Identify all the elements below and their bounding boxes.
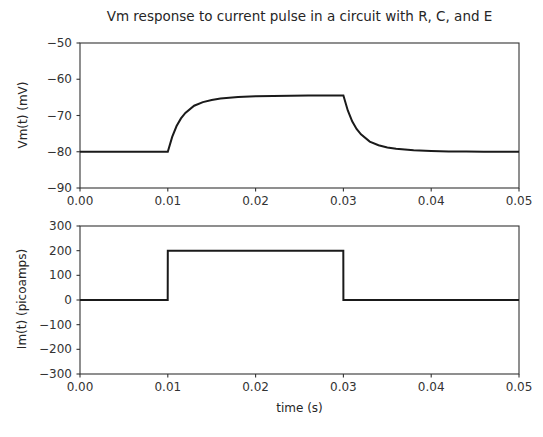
- im-xtick-label: 0.02: [242, 380, 269, 394]
- vm-ytick-label: −80: [0, 145, 72, 159]
- vm-xtick-label: 0.00: [67, 194, 94, 208]
- figure-canvas: Vm response to current pulse in a circui…: [0, 0, 543, 437]
- vm-plot-frame: [80, 43, 519, 188]
- vm-ytick-label: −60: [0, 72, 72, 86]
- vm-ytick-label: −70: [0, 109, 72, 123]
- vm-axes: [0, 0, 543, 437]
- im-ytick-label: 100: [0, 268, 72, 282]
- vm-xtick-label: 0.02: [242, 194, 269, 208]
- im-xtick-label: 0.03: [330, 380, 357, 394]
- vm-ytick-label: −90: [0, 181, 72, 195]
- im-xtick-label: 0.00: [67, 380, 94, 394]
- vm-xtick-label: 0.01: [154, 194, 181, 208]
- vm-y-axis-label: Vm(t) (mV): [15, 42, 29, 187]
- im-xtick-label: 0.05: [506, 380, 533, 394]
- im-ytick-label: −200: [0, 342, 72, 356]
- im-ytick-label: 300: [0, 219, 72, 233]
- im-xtick-label: 0.04: [418, 380, 445, 394]
- vm-ytick-label: −50: [0, 36, 72, 50]
- im-ytick-label: 200: [0, 244, 72, 258]
- vm-xtick-label: 0.04: [418, 194, 445, 208]
- im-xtick-label: 0.01: [154, 380, 181, 394]
- vm-xtick-label: 0.03: [330, 194, 357, 208]
- im-ytick-label: 0: [0, 293, 72, 307]
- im-x-axis-label: time (s): [276, 401, 323, 415]
- im-trace-line: [80, 251, 519, 300]
- vm-xtick-label: 0.05: [506, 194, 533, 208]
- im-ytick-label: −100: [0, 318, 72, 332]
- im-y-axis-label: Im(t) (picoamps): [15, 205, 29, 393]
- vm-trace-line: [80, 96, 519, 152]
- im-ytick-label: −300: [0, 367, 72, 381]
